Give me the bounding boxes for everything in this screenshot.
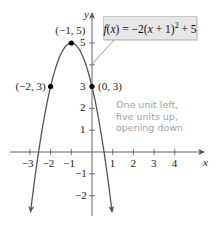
note-line-2: five units up,	[116, 111, 183, 123]
equation-text: f(x) = −2(x + 1)2 + 5	[103, 21, 196, 35]
labeled-points	[48, 40, 95, 89]
note-line-1: One unit left,	[116, 99, 183, 111]
point-label: (−2, 3)	[16, 81, 46, 92]
x-tick-label: 3	[151, 158, 157, 169]
x-tick-label: 4	[172, 158, 178, 169]
y-tick-label: 2	[80, 102, 86, 113]
y-tick-label: 5	[80, 37, 86, 48]
point-label: (−1, 5)	[55, 25, 85, 36]
y-tick-label: −1	[75, 168, 87, 179]
y-tick-label: 3	[80, 81, 86, 92]
transformation-note: One unit left, five units up, opening do…	[116, 99, 183, 134]
x-tick-label: 1	[110, 158, 116, 169]
y-tick-label: 1	[80, 124, 86, 135]
equation-callout: f(x) = −2(x + 1)2 + 5	[103, 16, 197, 40]
x-tick-label: −2	[43, 158, 55, 169]
parabola-curve	[31, 43, 113, 212]
point-marker	[69, 40, 74, 45]
point-label: (0, 3)	[98, 81, 122, 92]
callout-pointer	[92, 40, 114, 64]
x-axis-label: x	[203, 157, 208, 168]
point-marker	[48, 84, 53, 89]
y-axis-label: y	[84, 9, 89, 20]
x-tick-label: −3	[22, 158, 34, 169]
point-marker	[89, 84, 94, 89]
note-line-3: opening down	[116, 122, 183, 134]
x-tick-label: −1	[63, 158, 75, 169]
y-tick-label: −2	[75, 190, 87, 201]
x-tick-label: 2	[130, 158, 136, 169]
curve-left-branch	[31, 43, 72, 212]
